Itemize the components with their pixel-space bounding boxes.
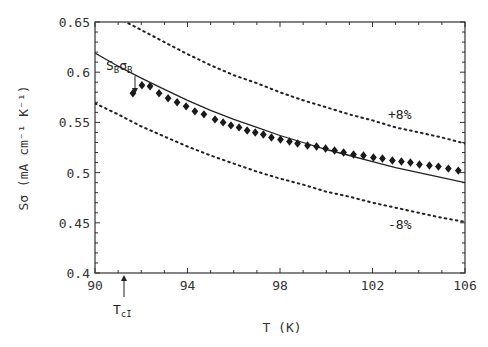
data-point-diamond: [139, 81, 146, 89]
data-point-diamond: [379, 154, 386, 162]
data-point-diamond: [426, 161, 433, 169]
annotation-tci: TcI: [113, 275, 132, 319]
y-tick-label: 0.4: [67, 266, 91, 281]
data-point-diamond: [445, 164, 452, 172]
plot-border: [95, 22, 465, 273]
data-point-diamond: [220, 118, 227, 126]
plot-frame: [95, 22, 465, 273]
data-point-diamond: [228, 121, 235, 129]
data-point-diamond: [398, 157, 405, 165]
data-point-diamond: [313, 142, 320, 150]
data-point-diamond: [252, 128, 259, 136]
data-point-diamond: [192, 107, 199, 115]
y-tick-label: 0.65: [59, 15, 90, 30]
data-point-diamond: [435, 162, 442, 170]
data-point-diamond: [212, 115, 219, 123]
data-point-diamond: [322, 144, 329, 152]
data-point-diamond: [236, 123, 243, 131]
data-point-diamond: [331, 146, 338, 154]
data-point-diamond: [183, 102, 190, 110]
x-tick-label: 94: [180, 278, 196, 293]
data-point-diamond: [407, 158, 414, 166]
annotation-minus8: -8%: [388, 217, 412, 232]
data-point-diamond: [174, 98, 181, 106]
data-point-diamond: [416, 160, 423, 168]
data-point-diamond: [244, 126, 251, 134]
x-tick-label: 98: [272, 278, 288, 293]
data-point-diamond: [156, 89, 163, 97]
x-tick-label: 106: [453, 278, 476, 293]
chart: 909498102106 0.40.450.50.550.60.65 T (K)…: [0, 0, 488, 347]
data-point-diamond: [201, 110, 208, 118]
x-tick-label: 102: [361, 278, 384, 293]
annotation-plus8: +8%: [388, 107, 412, 122]
data-point-diamond: [389, 156, 396, 164]
data-point-diamond: [165, 94, 172, 102]
x-axis-title: T (K): [262, 320, 301, 335]
data-point-diamond: [370, 153, 377, 161]
y-tick-label: 0.45: [59, 216, 90, 231]
annotation-sb-label: SBσB: [106, 58, 133, 75]
x-axis-ticks: 909498102106: [87, 22, 477, 293]
y-tick-label: 0.6: [67, 65, 90, 80]
y-axis-ticks: 0.40.450.50.550.60.65: [59, 15, 465, 281]
y-tick-label: 0.5: [67, 166, 90, 181]
data-point-diamond: [340, 148, 347, 156]
arrow-up-icon: [121, 275, 127, 281]
data-point-diamond: [260, 130, 267, 138]
data-point-diamond: [455, 166, 462, 174]
tci-label: TcI: [113, 302, 132, 319]
y-axis-title: Sσ (mA cm⁻¹ K⁻¹): [16, 85, 31, 210]
data-point-diamond: [268, 133, 275, 141]
y-tick-label: 0.55: [59, 115, 90, 130]
measured-data-markers: [130, 81, 462, 175]
annotation-sb-sigmab: SBσB: [106, 58, 138, 94]
